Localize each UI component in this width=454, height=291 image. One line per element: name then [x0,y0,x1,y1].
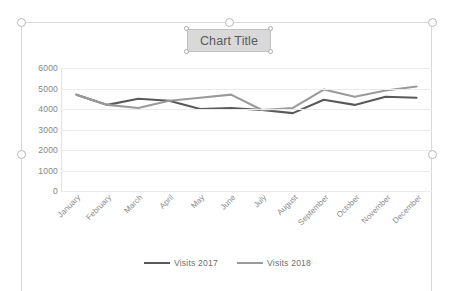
legend-label: Visits 2017 [174,258,218,268]
resize-handle-top-middle[interactable] [225,18,234,27]
plot-area[interactable] [61,68,432,191]
gridline [61,68,432,69]
y-axis-tick-label: 1000 [38,166,58,176]
chart-legend[interactable]: Visits 2017Visits 2018 [22,258,433,268]
legend-item[interactable]: Visits 2018 [237,258,311,268]
resize-handle-top-right[interactable] [428,18,437,27]
y-axis-tick-label: 2000 [38,145,58,155]
legend-item[interactable]: Visits 2017 [144,258,218,268]
gridline [61,150,432,151]
gridline [61,191,432,192]
series-line[interactable] [76,86,416,110]
y-axis-tick-label: 6000 [38,63,58,73]
y-axis-tick-label: 3000 [38,125,58,135]
series-line[interactable] [76,95,416,113]
chart-object[interactable]: Chart Title 6000500040003000200010000 Ja… [21,22,432,291]
resize-handle-middle-right[interactable] [428,150,437,159]
legend-label: Visits 2018 [267,258,311,268]
gridline [61,171,432,172]
title-handle-top-left[interactable] [184,26,189,31]
gridline [61,109,432,110]
title-handle-top-right[interactable] [268,26,273,31]
chart-title-text: Chart Title [187,29,271,52]
gridline [61,89,432,90]
y-axis-tick-label: 0 [53,186,58,196]
title-handle-bottom-left[interactable] [184,49,189,54]
y-axis-tick-label: 5000 [38,84,58,94]
resize-handle-middle-left[interactable] [17,150,26,159]
chart-title[interactable]: Chart Title [187,29,271,52]
y-axis-labels: 6000500040003000200010000 [22,68,58,191]
y-axis-tick-label: 4000 [38,104,58,114]
title-handle-bottom-right[interactable] [268,49,273,54]
legend-color-swatch [237,262,263,265]
legend-color-swatch [144,262,170,265]
gridline [61,130,432,131]
resize-handle-top-left[interactable] [17,18,26,27]
x-axis-labels: JanuaryFebruaryMarchAprilMayJuneJulyAugu… [61,193,432,248]
